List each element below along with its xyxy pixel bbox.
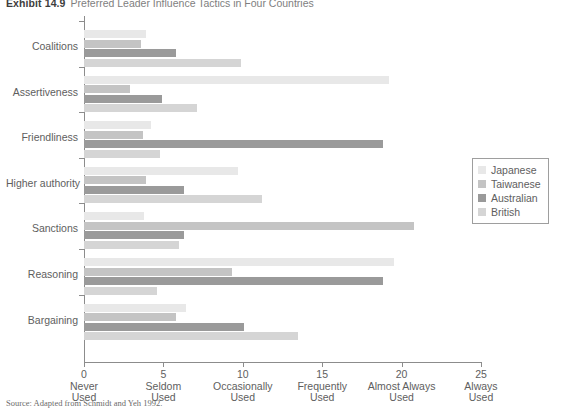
bar-taiwanese-assertiveness [84, 85, 130, 93]
y-axis-tick [79, 112, 84, 113]
bar-australian-friendliness [84, 140, 383, 148]
bar-british-bargaining [84, 332, 298, 340]
bar-british-friendliness [84, 150, 160, 158]
category-label-higher-authority: Higher authority [6, 177, 78, 189]
legend-swatch-icon-taiwanese [478, 180, 486, 188]
chart-legend: JapaneseTaiwaneseAustralianBritish [472, 158, 549, 224]
bar-british-higher-authority [84, 195, 262, 203]
category-label-friendliness: Friendliness [6, 131, 78, 143]
x-axis-tick-value: 20 [357, 369, 447, 381]
y-axis-tick [79, 21, 84, 22]
y-axis-tick [79, 203, 84, 204]
bar-japanese-friendliness [84, 121, 151, 129]
bar-british-sanctions [84, 241, 179, 249]
x-axis-label-10: 10OccasionallyUsed [198, 369, 288, 404]
category-label-sanctions: Sanctions [6, 222, 78, 234]
bar-australian-sanctions [84, 231, 184, 239]
bar-australian-higher-authority [84, 186, 184, 194]
legend-item-japanese[interactable]: Japanese [478, 163, 541, 177]
bar-australian-bargaining [84, 323, 244, 331]
category-label-bargaining: Bargaining [6, 314, 78, 326]
bar-taiwanese-bargaining [84, 313, 176, 321]
category-label-assertiveness: Assertiveness [6, 86, 78, 98]
bar-japanese-coalitions [84, 30, 146, 38]
x-axis-tick-15 [322, 362, 323, 367]
y-axis-tick [79, 249, 84, 250]
x-axis-tick-value: 15 [277, 369, 367, 381]
legend-item-british[interactable]: British [478, 205, 541, 219]
bar-british-assertiveness [84, 104, 197, 112]
legend-label: Japanese [491, 164, 537, 176]
x-axis-tick-value: 5 [118, 369, 208, 381]
bar-taiwanese-coalitions [84, 40, 141, 48]
bar-japanese-reasoning [84, 258, 394, 266]
category-label-coalitions: Coalitions [6, 40, 78, 52]
x-axis-tick-value: 25 [436, 369, 526, 381]
x-axis-tick-value: 10 [198, 369, 288, 381]
x-axis-label-25: 25AlwaysUsed [436, 369, 526, 404]
x-axis-label-20: 20Almost AlwaysUsed [357, 369, 447, 404]
y-axis-tick [79, 295, 84, 296]
bar-japanese-sanctions [84, 212, 144, 220]
x-axis-label-15: 15FrequentlyUsed [277, 369, 367, 404]
exhibit-number: Exhibit 14.9 [6, 0, 66, 9]
legend-swatch-icon-british [478, 208, 486, 216]
bar-australian-reasoning [84, 277, 383, 285]
bar-japanese-assertiveness [84, 76, 389, 84]
x-axis-tick-10 [243, 362, 244, 367]
y-axis-tick [79, 67, 84, 68]
legend-label: Taiwanese [491, 178, 541, 190]
bar-australian-coalitions [84, 49, 176, 57]
exhibit-title-text: Preferred Leader Influence Tactics in Fo… [71, 0, 314, 9]
x-axis-tick-25 [481, 362, 482, 367]
legend-swatch-icon-japanese [478, 166, 486, 174]
bar-taiwanese-higher-authority [84, 176, 146, 184]
x-axis-tick-5 [163, 362, 164, 367]
x-axis-tick-0 [84, 362, 85, 367]
x-axis-tick-20 [402, 362, 403, 367]
x-axis-tick-word-2: Used [357, 392, 447, 404]
legend-item-taiwanese[interactable]: Taiwanese [478, 177, 541, 191]
category-label-reasoning: Reasoning [6, 268, 78, 280]
x-axis-tick-value: 0 [39, 369, 129, 381]
bar-australian-assertiveness [84, 95, 162, 103]
legend-swatch-icon-australian [478, 194, 486, 202]
x-axis-tick-word-2: Used [277, 392, 367, 404]
plot-area: CoalitionsAssertivenessFriendlinessHighe… [84, 16, 481, 362]
legend-item-australian[interactable]: Australian [478, 191, 541, 205]
x-axis-tick-word-2: Used [436, 392, 526, 404]
source-note: Source: Adapted from Schmidt and Yeh 199… [6, 398, 162, 408]
bar-japanese-bargaining [84, 304, 186, 312]
x-axis-line [84, 362, 482, 363]
x-axis-tick-word-2: Used [198, 392, 288, 404]
bar-taiwanese-friendliness [84, 131, 143, 139]
legend-label: British [491, 206, 520, 218]
bar-taiwanese-sanctions [84, 222, 414, 230]
bar-japanese-higher-authority [84, 167, 238, 175]
bar-british-coalitions [84, 59, 241, 67]
bar-taiwanese-reasoning [84, 268, 232, 276]
bar-british-reasoning [84, 287, 157, 295]
legend-label: Australian [491, 192, 538, 204]
y-axis-tick [79, 158, 84, 159]
